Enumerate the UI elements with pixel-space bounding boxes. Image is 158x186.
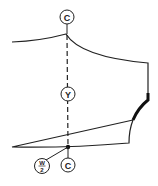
pattern-outline <box>12 34 148 147</box>
svg-text:W: W <box>39 160 45 166</box>
pattern-diagram: C Y C W 2 <box>0 0 158 186</box>
svg-text:C: C <box>64 13 71 23</box>
half-width-label: W 2 <box>35 159 50 174</box>
y-measure-label: Y <box>61 87 75 101</box>
top-center-label: C <box>60 10 74 24</box>
bottom-center-label: C <box>61 158 75 172</box>
armhole-curve-bold <box>133 93 148 120</box>
svg-text:Y: Y <box>65 90 71 100</box>
svg-text:C: C <box>65 161 72 171</box>
bottom-leader-w2 <box>46 147 68 160</box>
